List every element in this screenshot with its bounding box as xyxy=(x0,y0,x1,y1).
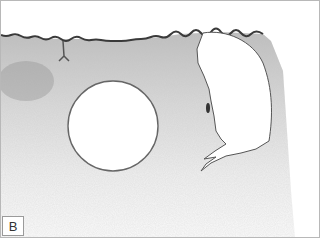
panel-label: B xyxy=(2,216,24,236)
micrograph-panel: B xyxy=(0,0,320,238)
tissue-section-image xyxy=(1,1,319,237)
